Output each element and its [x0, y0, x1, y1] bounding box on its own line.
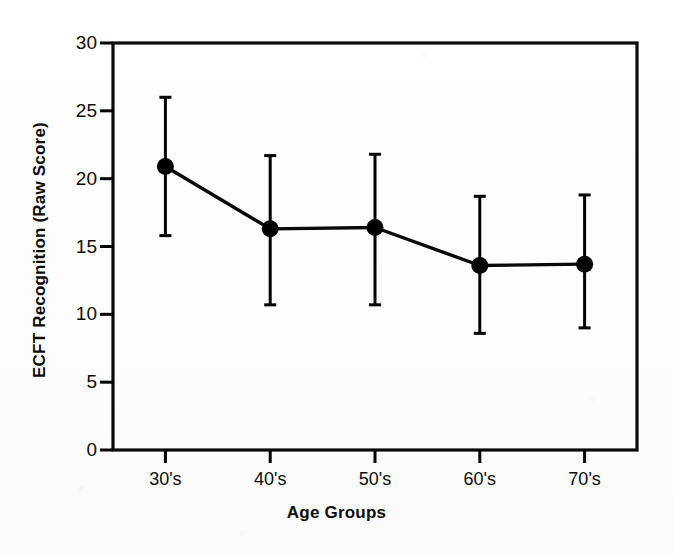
- x-axis-title: Age Groups: [0, 503, 673, 523]
- x-tick-label-40's: 40's: [230, 470, 310, 488]
- x-tick-label-30's: 30's: [125, 470, 205, 488]
- figure-ecft-recognition-by-age: 051015202530 30's40's50's60's70's ECFT R…: [0, 0, 673, 555]
- y-axis-title: ECFT Recognition (Raw Score): [30, 40, 50, 460]
- x-tick-label-60's: 60's: [440, 470, 520, 488]
- x-tick-label-50's: 50's: [335, 470, 415, 488]
- x-tick-label-70's: 70's: [545, 470, 625, 488]
- x-axis-tick-labels: 30's40's50's60's70's: [0, 0, 673, 555]
